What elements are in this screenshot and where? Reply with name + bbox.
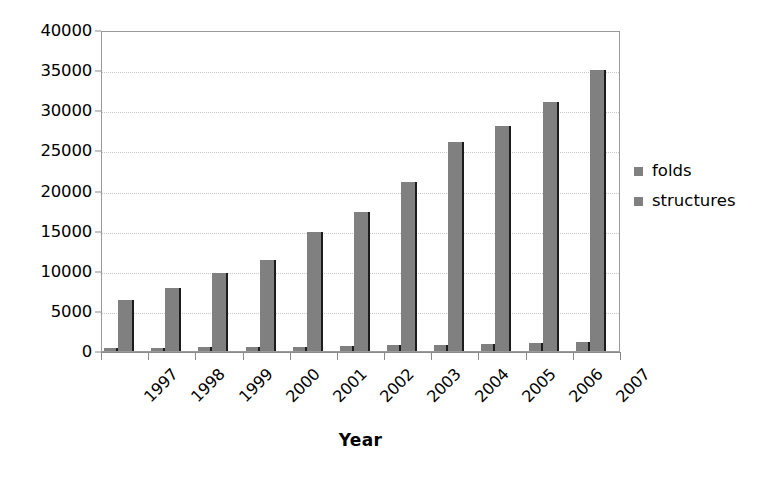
- y-tick-label: 15000: [41, 223, 93, 240]
- legend-label: structures: [652, 193, 735, 210]
- y-tick-mark: [95, 111, 101, 112]
- bar-group: [244, 32, 291, 351]
- bar-structures-2002: [354, 212, 370, 351]
- x-tick-label: 2006: [566, 366, 605, 405]
- bars-layer: [102, 32, 619, 351]
- chart-legend: foldsstructures: [634, 163, 768, 223]
- y-tick-mark: [95, 352, 101, 353]
- x-tick-label: 2003: [425, 366, 464, 405]
- x-tick-label: 1999: [236, 366, 275, 405]
- x-tick-label: 2005: [519, 366, 558, 405]
- legend-label: folds: [652, 163, 692, 180]
- bar-folds-1999: [198, 347, 212, 351]
- legend-swatch-icon: [634, 167, 643, 176]
- y-tick-mark: [95, 231, 101, 232]
- bar-folds-2001: [293, 347, 307, 351]
- bar-folds-2007: [576, 342, 590, 351]
- bar-folds-2006: [529, 343, 543, 351]
- bar-structures-2001: [307, 232, 323, 351]
- bar-group: [479, 32, 526, 351]
- bar-structures-1999: [212, 273, 228, 351]
- y-tick-label: 20000: [41, 183, 93, 200]
- bar-structures-2006: [543, 102, 559, 351]
- bar-structures-2004: [448, 142, 464, 351]
- y-tick-label: 40000: [41, 23, 93, 40]
- y-tick-label: 25000: [41, 143, 93, 160]
- bar-folds-2004: [434, 345, 448, 351]
- bar-group: [385, 32, 432, 351]
- bar-folds-2003: [387, 345, 401, 351]
- y-tick-label: 35000: [41, 63, 93, 80]
- legend-swatch-icon: [634, 197, 643, 206]
- bar-folds-2005: [481, 344, 495, 351]
- bar-folds-2002: [340, 346, 354, 351]
- bar-folds-1997: [104, 348, 118, 351]
- x-tick-label: 2007: [614, 366, 653, 405]
- y-tick-mark: [95, 191, 101, 192]
- y-tick-mark: [95, 71, 101, 72]
- y-tick-mark: [95, 311, 101, 312]
- x-tick-label: 2001: [331, 366, 370, 405]
- bar-group: [149, 32, 196, 351]
- y-tick-mark: [95, 31, 101, 32]
- x-tick-label: 2004: [472, 366, 511, 405]
- bar-group: [338, 32, 385, 351]
- bar-group: [432, 32, 479, 351]
- bar-group: [291, 32, 338, 351]
- bar-structures-1998: [165, 288, 181, 351]
- bar-group: [102, 32, 149, 351]
- x-tick-label: 2000: [283, 366, 322, 405]
- bar-folds-1998: [151, 348, 165, 351]
- bar-structures-2007: [590, 70, 606, 351]
- x-tick-label: 1998: [189, 366, 228, 405]
- bar-structures-2005: [495, 126, 511, 351]
- bar-folds-2000: [246, 347, 260, 351]
- y-tick-label: 0: [82, 344, 92, 361]
- x-tick-label: 1997: [142, 366, 181, 405]
- legend-item-structures[interactable]: structures: [634, 193, 768, 210]
- bar-structures-2003: [401, 182, 417, 351]
- y-tick-mark: [95, 151, 101, 152]
- bar-structures-1997: [118, 300, 134, 351]
- bar-structures-2000: [260, 260, 276, 351]
- legend-item-folds[interactable]: folds: [634, 163, 768, 180]
- x-axis-title: Year: [101, 430, 620, 450]
- x-axis-labels: 1997199819992000200120022003200420052006…: [101, 352, 620, 422]
- y-axis: 0500010000150002000025000300003500040000: [0, 31, 92, 352]
- y-tick-label: 5000: [51, 304, 92, 321]
- bar-group: [574, 32, 621, 351]
- bar-group: [196, 32, 243, 351]
- bar-group: [527, 32, 574, 351]
- bar-chart: 0500010000150002000025000300003500040000…: [0, 0, 774, 480]
- plot-area: [101, 31, 620, 352]
- x-tick-label: 2002: [378, 366, 417, 405]
- y-tick-label: 10000: [41, 264, 93, 281]
- y-tick-mark: [95, 271, 101, 272]
- x-tick-mark: [620, 352, 621, 360]
- y-tick-label: 30000: [41, 103, 93, 120]
